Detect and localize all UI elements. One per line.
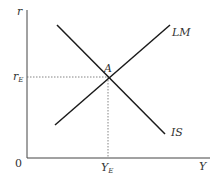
is-lm-diagram: r rE A LM IS 0 YE Y (0, 0, 217, 180)
is-label: IS (171, 127, 183, 138)
y-e-sub: E (108, 167, 113, 175)
lm-label: LM (172, 27, 191, 38)
r-e-label: rE (13, 71, 23, 84)
origin-label: 0 (15, 158, 22, 169)
y-axis-label: r (17, 6, 22, 17)
is-curve (57, 25, 165, 134)
r-e-sub: E (18, 76, 23, 84)
point-a-label: A (104, 63, 112, 74)
x-axis-label: Y (199, 161, 206, 172)
y-e-label: YE (101, 162, 113, 175)
